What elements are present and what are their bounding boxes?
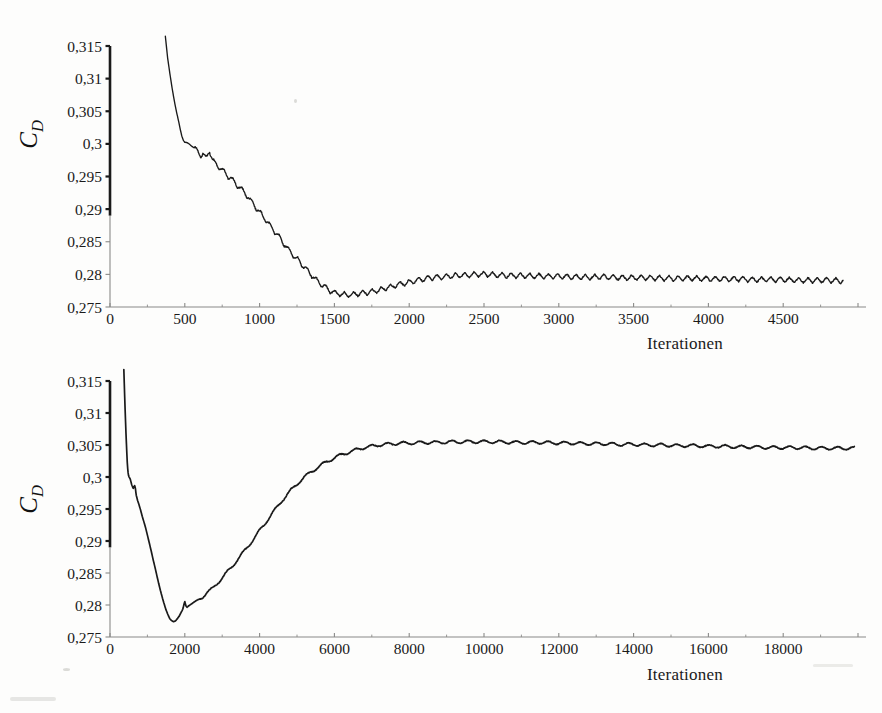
y-axis-label-top: CD bbox=[15, 120, 48, 149]
x-axis-tick-label: 2000 bbox=[169, 640, 200, 657]
scan-artifact bbox=[294, 99, 297, 103]
y-axis-tick-label: 0,285 bbox=[67, 565, 102, 582]
chart-top-canvas: 0,2750,280,2850,290,2950,30,3050,310,315… bbox=[0, 0, 882, 365]
x-axis-tick-label: 1500 bbox=[319, 310, 350, 327]
y-axis-tick-label: 0,295 bbox=[67, 168, 102, 185]
chart-bottom: 0,2750,280,2850,290,2950,30,3050,310,315… bbox=[0, 365, 882, 713]
y-axis-tick-label: 0,305 bbox=[67, 437, 102, 454]
x-axis-tick-label: 10000 bbox=[465, 640, 504, 657]
scanned-page: 0,2750,280,2850,290,2950,30,3050,310,315… bbox=[0, 0, 882, 713]
x-axis-label-bottom: Iterationen bbox=[647, 665, 723, 685]
y-axis-tick-label: 0,31 bbox=[75, 70, 102, 87]
y-axis-tick-label: 0,275 bbox=[67, 299, 102, 316]
y-axis-tick-label: 0,3 bbox=[83, 469, 103, 486]
x-axis-tick-label: 1000 bbox=[244, 310, 275, 327]
scan-artifact bbox=[63, 668, 70, 671]
scan-artifact bbox=[10, 697, 56, 701]
x-axis-tick-label: 4000 bbox=[244, 640, 275, 657]
x-axis-tick-label: 2000 bbox=[394, 310, 425, 327]
data-line-cd bbox=[165, 36, 843, 297]
chart-bottom-canvas: 0,2750,280,2850,290,2950,30,3050,310,315… bbox=[0, 365, 882, 713]
y-axis-tick-label: 0,28 bbox=[75, 266, 102, 283]
x-axis-tick-label: 8000 bbox=[394, 640, 425, 657]
y-axis-tick-label: 0,295 bbox=[67, 501, 102, 518]
x-axis-tick-label: 14000 bbox=[614, 640, 653, 657]
x-axis-tick-label: 4000 bbox=[693, 310, 724, 327]
y-axis-tick-label: 0,29 bbox=[75, 533, 102, 550]
data-line-cd bbox=[124, 369, 854, 621]
x-axis-tick-label: 0 bbox=[106, 310, 114, 327]
x-axis-tick-label: 18000 bbox=[764, 640, 803, 657]
chart-top: 0,2750,280,2850,290,2950,30,3050,310,315… bbox=[0, 0, 882, 365]
y-axis-tick-label: 0,305 bbox=[67, 103, 102, 120]
x-axis-tick-label: 4500 bbox=[768, 310, 799, 327]
y-axis-tick-label: 0,28 bbox=[75, 597, 102, 614]
y-axis-tick-label: 0,29 bbox=[75, 201, 102, 218]
x-axis-tick-label: 16000 bbox=[689, 640, 728, 657]
y-axis-tick-label: 0,315 bbox=[67, 373, 102, 390]
x-axis-tick-label: 12000 bbox=[539, 640, 578, 657]
y-axis-tick-label: 0,3 bbox=[83, 135, 103, 152]
y-axis-label-sub: D bbox=[28, 485, 47, 497]
x-axis-tick-label: 500 bbox=[173, 310, 197, 327]
y-axis-tick-label: 0,31 bbox=[75, 405, 102, 422]
x-axis-tick-label: 0 bbox=[106, 640, 114, 657]
scan-artifact bbox=[813, 664, 853, 667]
y-axis-tick-label: 0,275 bbox=[67, 629, 102, 646]
x-axis-tick-label: 6000 bbox=[319, 640, 350, 657]
y-axis-label-bottom: CD bbox=[15, 485, 48, 514]
y-axis-tick-label: 0,285 bbox=[67, 233, 102, 250]
y-axis-label-base: C bbox=[15, 497, 42, 514]
x-axis-tick-label: 3000 bbox=[543, 310, 574, 327]
y-axis-label-sub: D bbox=[28, 120, 47, 132]
y-axis-tick-label: 0,315 bbox=[67, 38, 102, 55]
x-axis-label-top: Iterationen bbox=[647, 334, 723, 354]
y-axis-label-base: C bbox=[15, 132, 42, 149]
x-axis-tick-label: 3500 bbox=[618, 310, 649, 327]
x-axis-tick-label: 2500 bbox=[469, 310, 500, 327]
